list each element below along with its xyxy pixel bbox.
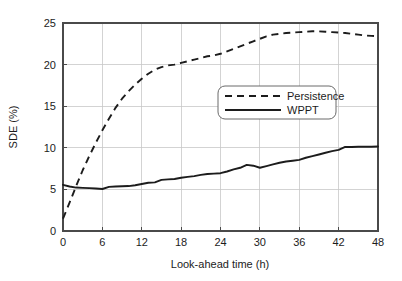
line-chart-canvas: 0612182430364248 0510152025 Look-ahead t… [0,0,402,281]
x-tick-label: 42 [333,236,345,248]
x-tick-label: 0 [60,236,66,248]
x-tick-label: 36 [293,236,305,248]
x-tick-label: 6 [99,236,105,248]
x-axis-tick-labels: 0612182430364248 [60,236,384,248]
x-axis-title: Look-ahead time (h) [171,258,269,270]
x-tick-label: 18 [175,236,187,248]
x-tick-label: 30 [254,236,266,248]
x-tick-label: 24 [214,236,226,248]
y-tick-label: 15 [44,100,56,112]
y-tick-label: 5 [50,183,56,195]
y-tick-label: 0 [50,225,56,237]
legend-label-persistence: Persistence [287,90,344,102]
y-axis-title: SDE (%) [7,106,19,149]
x-tick-label: 48 [372,236,384,248]
chart-figure: 0612182430364248 0510152025 Look-ahead t… [0,0,402,281]
legend-label-wppt: WPPT [287,104,319,116]
y-tick-label: 10 [44,142,56,154]
y-axis-tick-labels: 0510152025 [44,17,56,237]
y-tick-label: 25 [44,17,56,29]
y-tick-label: 20 [44,59,56,71]
legend: Persistence WPPT [218,86,344,119]
x-tick-label: 12 [136,236,148,248]
